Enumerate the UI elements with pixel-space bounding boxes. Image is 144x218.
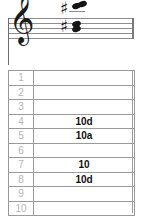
ledger-line-icon xyxy=(69,11,85,12)
table-row[interactable]: 3 xyxy=(9,100,135,115)
sharp-accidental-icon: ♯ xyxy=(60,0,68,17)
table-row[interactable]: 10 xyxy=(9,201,135,216)
row-value-cell[interactable] xyxy=(34,143,135,158)
row-number-cell: 6 xyxy=(9,143,34,158)
table-row[interactable]: 410d xyxy=(9,114,135,129)
chord-lower: ♯ xyxy=(60,19,100,37)
music-notation-staff: 𝄞 ♯ ♯ xyxy=(0,0,144,66)
row-number-cell: 3 xyxy=(9,100,34,115)
treble-clef-icon: 𝄞 xyxy=(9,0,34,40)
table-row[interactable]: 510a xyxy=(9,129,135,144)
row-value-cell[interactable] xyxy=(34,187,135,202)
notehead-icon xyxy=(77,0,88,8)
table-row[interactable]: 710 xyxy=(9,158,135,173)
table-row[interactable]: 810d xyxy=(9,172,135,187)
row-number-cell: 7 xyxy=(9,158,34,173)
row-value-cell[interactable]: 10a xyxy=(34,129,135,144)
row-number-cell: 4 xyxy=(9,114,34,129)
table-row[interactable]: 2 xyxy=(9,85,135,100)
row-value-cell[interactable] xyxy=(34,71,135,86)
tablature-body: 123410d510a6710810d910 xyxy=(9,71,135,216)
row-value-cell[interactable]: 10 xyxy=(34,158,135,173)
table-row[interactable]: 6 xyxy=(9,143,135,158)
chord-upper: ♯ xyxy=(60,1,100,17)
row-number-cell: 2 xyxy=(9,85,34,100)
table-row[interactable]: 1 xyxy=(9,71,135,86)
table-row[interactable]: 9 xyxy=(9,187,135,202)
row-number-cell: 9 xyxy=(9,187,34,202)
table-right-edge xyxy=(132,70,133,213)
row-value-cell[interactable]: 10d xyxy=(34,114,135,129)
row-value-cell[interactable]: 10d xyxy=(34,172,135,187)
row-number-cell: 5 xyxy=(9,129,34,144)
row-number-cell: 10 xyxy=(9,201,34,216)
row-value-cell[interactable] xyxy=(34,85,135,100)
sharp-accidental-icon: ♯ xyxy=(60,18,68,35)
row-value-cell[interactable] xyxy=(34,100,135,115)
barline-right-icon xyxy=(132,18,134,39)
row-number-cell: 8 xyxy=(9,172,34,187)
row-number-cell: 1 xyxy=(9,71,34,86)
tablature-table: 123410d510a6710810d910 xyxy=(8,70,135,216)
row-value-cell[interactable] xyxy=(34,201,135,216)
